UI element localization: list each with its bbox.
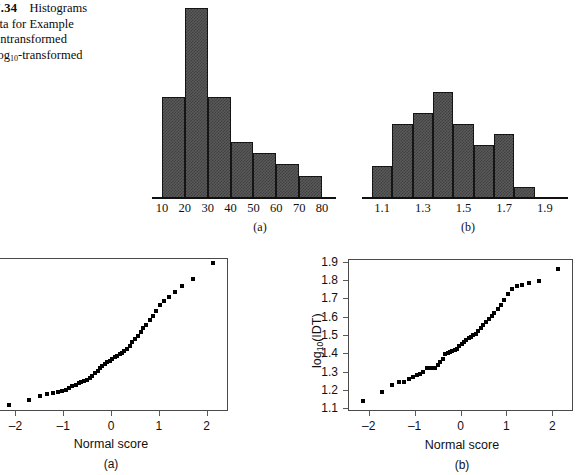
x-axis-tick-label: –2: [9, 419, 22, 433]
x-axis-tick-label: 0: [108, 419, 115, 433]
y-axis-tick: [343, 335, 348, 336]
figure-page: 7.34Histograms ata for Example untransfo…: [0, 0, 581, 475]
x-axis-tick: [63, 411, 64, 416]
histogram-tick-label: 1.5: [456, 201, 472, 216]
x-axis-tick: [15, 411, 16, 416]
histogram-bar: [185, 8, 208, 198]
histogram-tick-label: 40: [224, 201, 237, 216]
normal-plot-a-xaxis-title: Normal score: [74, 437, 148, 451]
caption-line-2: ata for Example: [0, 17, 169, 33]
y-axis-tick: [343, 298, 348, 299]
histogram-bar: [453, 124, 473, 198]
figure-caption: 7.34Histograms ata for Example untransfo…: [0, 1, 169, 66]
normal-plot-a: –2–1012 Normal score (a): [0, 255, 250, 475]
y-axis-tick: [343, 372, 348, 373]
histogram-bar: [474, 145, 494, 198]
histogram-tick-label: 1.1: [374, 201, 390, 216]
yaxis-title-post: (IDT): [310, 313, 324, 341]
histogram-tick-label: 50: [247, 201, 260, 216]
histogram-bar: [253, 153, 276, 198]
histogram-tick-label: 1.9: [537, 201, 553, 216]
histogram-tick-label: 70: [293, 201, 306, 216]
histogram-bar: [372, 166, 392, 198]
normal-plot-b-panel-label: (b): [455, 458, 470, 472]
normal-plot-b: –2–1012 1.11.21.31.41.51.61.71.81.9 log1…: [290, 255, 581, 475]
histogram-a-panel-label: (a): [253, 220, 266, 235]
normal-plot-b-xaxis-title: Normal score: [425, 438, 499, 452]
normal-plot-b-yaxis-title: log10(IDT): [310, 313, 325, 368]
histogram-bar: [433, 92, 453, 198]
x-axis-tick-label: 2: [203, 419, 210, 433]
x-axis-tick-label: 1: [155, 419, 162, 433]
caption-log-sub: 10: [10, 54, 18, 63]
histogram-b: 1.11.31.51.71.9 (b): [360, 0, 575, 230]
caption-line-3: untransformed: [0, 32, 169, 48]
histogram-b-panel-label: (b): [461, 220, 475, 235]
x-axis-tick: [207, 411, 208, 416]
caption-line-1: 7.34Histograms: [0, 1, 169, 17]
histogram-a-tick-labels: 1020304050607080: [150, 201, 340, 219]
histogram-tick-label: 10: [156, 201, 169, 216]
caption-text-1: Histograms: [29, 1, 87, 15]
y-axis-tick-label: 1.8: [310, 273, 338, 287]
histogram-bar: [392, 124, 412, 198]
y-axis-tick: [343, 390, 348, 391]
histogram-bar: [413, 113, 433, 198]
histogram-bar: [494, 134, 514, 198]
caption-log-post: -transformed: [18, 48, 83, 62]
histogram-b-tick-labels: 1.11.31.51.71.9: [360, 201, 575, 219]
histogram-tick-label: 1.7: [496, 201, 512, 216]
y-axis-tick-label: 1.7: [310, 291, 338, 305]
histogram-bar: [231, 142, 254, 198]
y-axis-tick: [343, 317, 348, 318]
histogram-b-bars: [360, 0, 575, 198]
yaxis-title-pre: log: [310, 351, 324, 368]
y-axis-tick: [343, 262, 348, 263]
histogram-a-axis-line: [152, 197, 336, 199]
y-axis-tick: [343, 280, 348, 281]
histogram-bar: [276, 164, 299, 198]
histogram-bar: [162, 97, 185, 198]
x-axis-tick: [111, 411, 112, 416]
y-axis-tick: [343, 408, 348, 409]
yaxis-title-sub: 10: [315, 342, 325, 351]
histogram-bar: [299, 176, 322, 198]
histogram-b-axis-line: [362, 197, 568, 199]
histogram-tick-label: 60: [270, 201, 283, 216]
histogram-tick-label: 1.3: [415, 201, 431, 216]
x-axis-tick-label: –1: [57, 419, 70, 433]
caption-line-4: log10-transformed: [0, 48, 169, 67]
histogram-tick-label: 30: [201, 201, 214, 216]
caption-figure-number: 7.34: [0, 1, 17, 15]
histogram-bar: [208, 97, 231, 198]
normal-plot-a-panel-label: (a): [104, 457, 119, 471]
histogram-tick-label: 80: [316, 201, 329, 216]
y-axis-tick: [343, 353, 348, 354]
y-axis-tick-label: 1.2: [310, 383, 338, 397]
caption-log-pre: log: [0, 48, 10, 62]
y-axis-tick-label: 1.9: [310, 255, 338, 269]
x-axis-tick: [159, 411, 160, 416]
y-axis-tick-label: 1.1: [310, 401, 338, 415]
histogram-a: 1020304050607080 (a): [150, 0, 340, 230]
histogram-tick-label: 20: [179, 201, 192, 216]
histogram-a-bars: [150, 0, 340, 198]
